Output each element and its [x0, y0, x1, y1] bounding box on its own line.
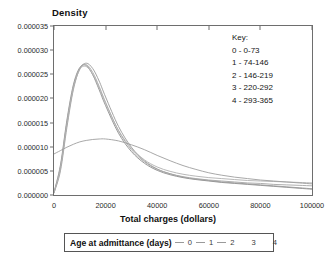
density-curve-3 — [54, 66, 312, 192]
y-axis-tick-label: 0.000005 — [18, 166, 54, 175]
y-axis-title: Density — [52, 7, 88, 18]
x-axis-tick-label: 20000 — [95, 195, 115, 210]
x-axis-tick-mark — [260, 26, 261, 30]
legend-line-swatch — [217, 242, 226, 243]
y-axis-tick-label: 0.000035 — [18, 22, 54, 31]
x-axis-tick-label: 60000 — [199, 195, 219, 210]
y-axis-tick-mark — [50, 146, 54, 147]
key-entry: 4 - 293-365 — [232, 95, 273, 108]
y-axis-tick-mark — [50, 74, 54, 75]
legend-item-label: 4 — [272, 238, 278, 247]
x-axis-tick-mark — [157, 26, 158, 30]
legend-line-swatch — [238, 242, 247, 243]
legend-strip: Age at admittance (days) 01234 — [64, 233, 274, 252]
y-axis-tick-label: 0.000030 — [18, 46, 54, 55]
legend-line-swatch — [260, 242, 269, 243]
x-axis-tick-label: 40000 — [147, 195, 167, 210]
key-entry: 3 - 220-292 — [232, 82, 273, 95]
density-curve-2 — [54, 64, 312, 192]
legend-item-4: 4 — [257, 238, 278, 247]
density-curve-1 — [54, 63, 312, 193]
key-panel: Key: 0 - 0-73 1 - 74-146 2 - 146-219 3 -… — [232, 32, 273, 108]
legend-item-2: 2 — [214, 238, 235, 247]
y-axis-tick-mark — [50, 122, 54, 123]
y-axis-tick-mark — [50, 170, 54, 171]
legend-item-3: 3 — [235, 238, 256, 247]
x-axis-tick-label: 0 — [52, 195, 56, 210]
key-entry: 2 - 146-219 — [232, 70, 273, 83]
x-axis-tick-mark — [312, 26, 313, 30]
density-chart-figure: Density Key: 0 - 0-73 1 - 74-146 2 - 146… — [0, 0, 336, 262]
y-axis-tick-label: 0.000000 — [18, 191, 54, 200]
y-axis-tick-mark — [50, 50, 54, 51]
x-axis-tick-label: 80000 — [250, 195, 270, 210]
key-heading: Key: — [232, 32, 273, 45]
y-axis-tick-label: 0.000010 — [18, 142, 54, 151]
legend-item-0: 0 — [172, 238, 193, 247]
legend-item-1: 1 — [193, 238, 214, 247]
legend-items: 01234 — [172, 238, 278, 247]
key-entry: 0 - 0-73 — [232, 45, 273, 58]
key-entry: 1 - 74-146 — [232, 57, 273, 70]
x-axis-tick-mark — [54, 26, 55, 30]
legend-line-swatch — [196, 242, 205, 243]
x-axis-tick-label: 100000 — [300, 195, 324, 210]
plot-area: Key: 0 - 0-73 1 - 74-146 2 - 146-219 3 -… — [53, 25, 313, 196]
legend-title: Age at admittance (days) — [70, 238, 172, 248]
y-axis-tick-label: 0.000015 — [18, 118, 54, 127]
y-axis-tick-mark — [50, 98, 54, 99]
y-axis-tick-label: 0.000020 — [18, 94, 54, 103]
density-curves — [54, 26, 312, 195]
x-axis-tick-mark — [105, 26, 106, 30]
x-axis-tick-mark — [208, 26, 209, 30]
density-curve-0 — [54, 65, 312, 192]
y-axis-tick-label: 0.000025 — [18, 70, 54, 79]
legend-line-swatch — [175, 242, 184, 243]
x-axis-title: Total charges (dollars) — [0, 214, 336, 224]
